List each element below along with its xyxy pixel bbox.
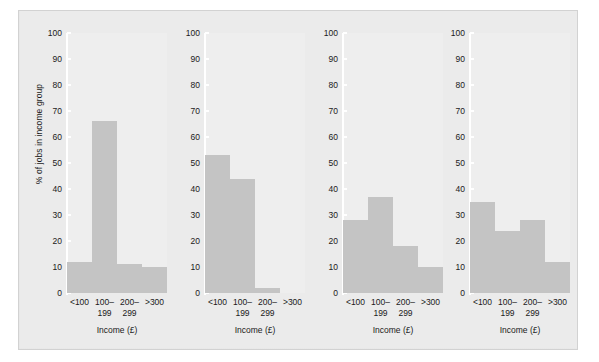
y-tick: 70 [37,106,67,116]
x-axis-label: Income (£) [67,325,167,335]
y-tick: 50 [313,158,343,168]
y-tick: 90 [313,54,343,64]
chart-panel-other-services: Other services 100 90 80 70 60 50 40 30 … [440,23,578,339]
bar [205,155,230,293]
bar [343,220,368,293]
y-tick: 20 [175,236,205,246]
y-tick: 20 [313,236,343,246]
x-tick: >300 [138,297,172,308]
y-tick: 70 [440,106,470,116]
x-axis-label: Income (£) [205,325,305,335]
y-tick: 60 [37,132,67,142]
bar [92,121,117,293]
y-tick: 50 [37,158,67,168]
y-tick: 60 [440,132,470,142]
y-tick: 70 [313,106,343,116]
y-tick: 30 [175,210,205,220]
y-tick: 100 [440,28,470,38]
x-axis-label: Income (£) [470,325,570,335]
figure-panel-container: % of jobs in income group Manufacturing,… [18,10,578,350]
bar-group [205,33,305,293]
y-tick: 30 [37,210,67,220]
y-tick: 10 [440,262,470,272]
x-tick: >300 [276,297,310,308]
bar [142,267,167,293]
bar [470,202,495,293]
y-tick: 10 [175,262,205,272]
bar [520,220,545,293]
y-tick: 40 [37,184,67,194]
y-tick: 40 [440,184,470,194]
bar [393,246,418,293]
y-tick: 40 [175,184,205,194]
y-tick: 100 [313,28,343,38]
x-axis-label: Income (£) [343,325,443,335]
bar [230,179,255,293]
bar-group [343,33,443,293]
y-tick: 80 [313,80,343,90]
bar [255,288,280,293]
y-tick: 70 [175,106,205,116]
y-tick: 10 [313,262,343,272]
bar-group [67,33,167,293]
y-tick: 100 [175,28,205,38]
x-tick: >300 [541,297,575,308]
y-tick: 90 [37,54,67,64]
y-tick: 60 [175,132,205,142]
y-tick: 90 [440,54,470,64]
y-tick: 80 [175,80,205,90]
y-tick: 30 [313,210,343,220]
bar [368,197,393,293]
y-tick: 20 [440,236,470,246]
y-tick: 10 [37,262,67,272]
y-tick: 60 [313,132,343,142]
bar [495,231,520,293]
y-tick: 100 [37,28,67,38]
chart-panel-banking: Banking, Finance, Insurance 100 90 80 70… [313,23,451,339]
y-tick: 20 [37,236,67,246]
y-tick: 40 [313,184,343,194]
y-tick: 80 [440,80,470,90]
y-tick: 90 [175,54,205,64]
chart-panel-manufacturing: Manufacturing, Metal goods, Engineering … [37,23,175,339]
y-tick: 30 [440,210,470,220]
bar [545,262,570,293]
y-tick: 50 [440,158,470,168]
y-tick: 50 [175,158,205,168]
bar-group [470,33,570,293]
bar [67,262,92,293]
chart-panel-distribution: Distribution, Shops, Hotels, Catering 10… [175,23,313,339]
bar [117,264,142,293]
y-tick: 80 [37,80,67,90]
